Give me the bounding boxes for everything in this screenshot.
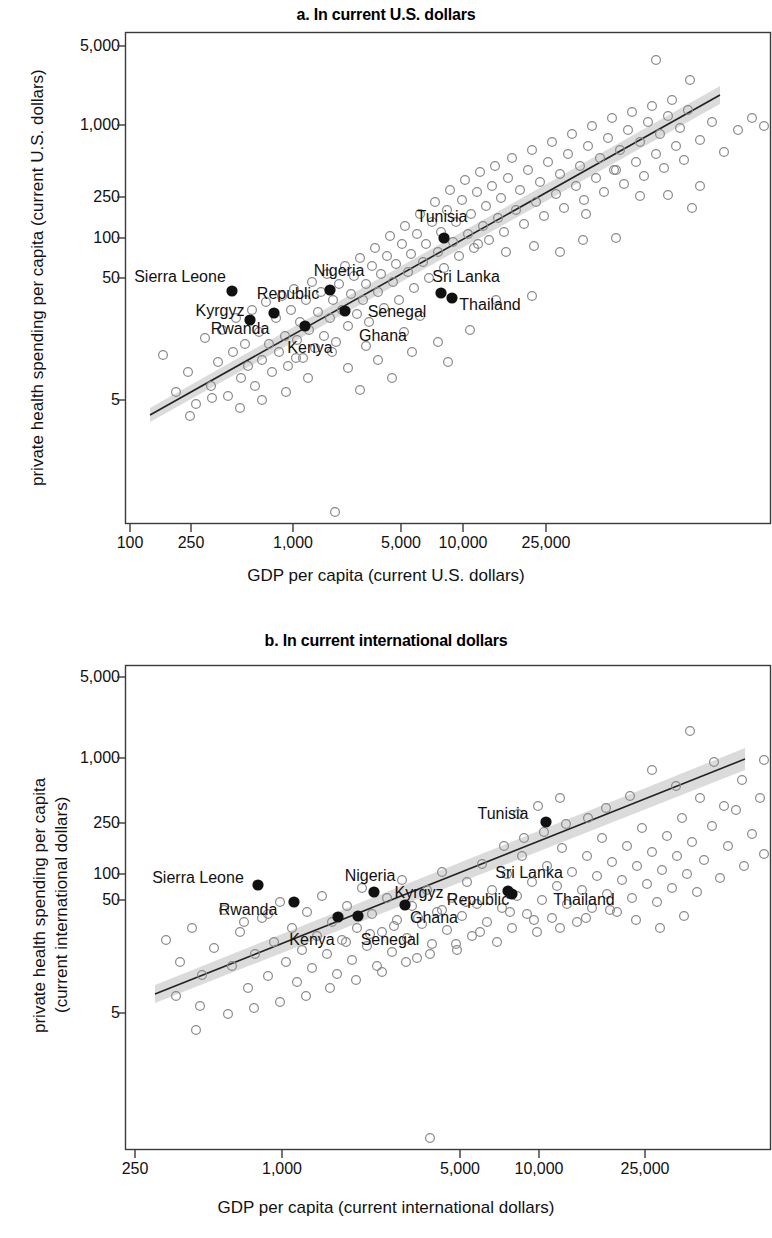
label-nigeria: Nigeria [314, 262, 365, 280]
label-kyrgyz: Kyrgyz [395, 884, 444, 902]
label-kyrgyz: Kyrgyz [196, 302, 245, 320]
point-senegal [339, 305, 350, 316]
label-sierra-leone: Sierra Leone [152, 869, 244, 887]
point-senegal [352, 910, 363, 921]
point-tunisia [540, 816, 551, 827]
label-senegal: Senegal [361, 931, 420, 949]
label-rwanda: Rwanda [219, 901, 278, 919]
label-sierra-leone: Sierra Leone [134, 268, 226, 286]
label-kenya: Kenya [289, 931, 334, 949]
label-republic: Republic [447, 891, 509, 909]
point-kenya [299, 320, 310, 331]
point-rwanda [288, 896, 299, 907]
label-sri-lanka: Sri Lanka [495, 864, 563, 882]
point-thailand [446, 292, 457, 303]
panel-a-plot [0, 0, 772, 560]
panel-a-x-axis-label: GDP per capita (current U.S. dollars) [0, 566, 772, 586]
label-rwanda: Rwanda [211, 320, 270, 338]
point-nigeria [368, 886, 379, 897]
label-thailand: Thailand [459, 296, 520, 314]
panel-b-plot [0, 610, 772, 1180]
label-kenya: Kenya [287, 339, 332, 357]
point-sierra-leone [226, 285, 237, 296]
point-tunisia [438, 232, 449, 243]
label-republic: Republic [257, 285, 319, 303]
point-sierra-leone [252, 879, 263, 890]
label-senegal: Senegal [368, 303, 427, 321]
label-sri-lanka: Sri Lanka [432, 268, 500, 286]
point-kyrgyz-republic [268, 307, 279, 318]
label-tunisia: Tunisia [478, 805, 529, 823]
label-tunisia: Tunisia [417, 208, 468, 226]
label-ghana: Ghana [359, 327, 407, 345]
panel-b-x-axis-label: GDP per capita (current international do… [0, 1198, 772, 1218]
point-kenya [332, 911, 343, 922]
panel-a-current-us-dollars: a. In current U.S. dollars private healt… [0, 0, 772, 600]
label-nigeria: Nigeria [345, 867, 396, 885]
panel-b-current-international-dollars: b. In current international dollars priv… [0, 610, 772, 1238]
label-thailand: Thailand [553, 891, 614, 909]
label-ghana: Ghana [410, 909, 458, 927]
point-sri-lanka [435, 287, 446, 298]
point-nigeria [324, 284, 335, 295]
